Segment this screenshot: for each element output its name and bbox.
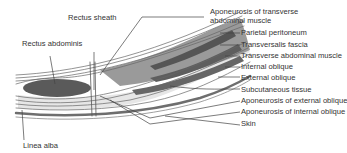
label-aponeurosis-transverse-2: abdominal muscle — [210, 17, 271, 26]
label-external-oblique: External oblique — [241, 74, 295, 83]
label-aponeurosis-external-oblique: Aponeurosis of external oblique — [241, 97, 347, 106]
label-aponeurosis-internal-oblique: Aponeurosis of internal oblique — [241, 108, 345, 117]
tissue-layers — [16, 12, 250, 119]
label-subcutaneous-tissue: Subcutaneous tissue — [241, 86, 312, 95]
label-transverse-abdominal-muscle: Transverse abdominal muscle — [241, 52, 342, 61]
label-skin: Skin — [241, 120, 256, 129]
label-rectus-abdominis: Rectus abdominis — [22, 40, 82, 49]
rectus-abdominis-shape — [23, 79, 91, 97]
label-parietal-peritoneum: Parietal peritoneum — [241, 29, 307, 38]
label-rectus-sheath: Rectus sheath — [68, 14, 117, 23]
label-linea-alba: Linea alba — [23, 142, 58, 151]
label-internal-oblique: Internal oblique — [241, 63, 293, 72]
label-transversalis-fascia: Transversalis fascia — [241, 41, 308, 50]
